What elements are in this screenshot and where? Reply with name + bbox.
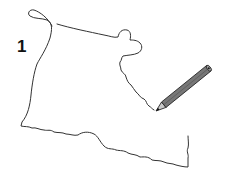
boot-outline <box>21 10 188 167</box>
boot-tracing-illustration <box>0 0 232 185</box>
boot-top-edge <box>57 24 154 110</box>
pencil-icon <box>154 64 213 113</box>
